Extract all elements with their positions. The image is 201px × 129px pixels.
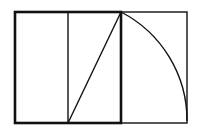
- background: [0, 0, 201, 129]
- golden-rectangle-diagram: [0, 0, 201, 129]
